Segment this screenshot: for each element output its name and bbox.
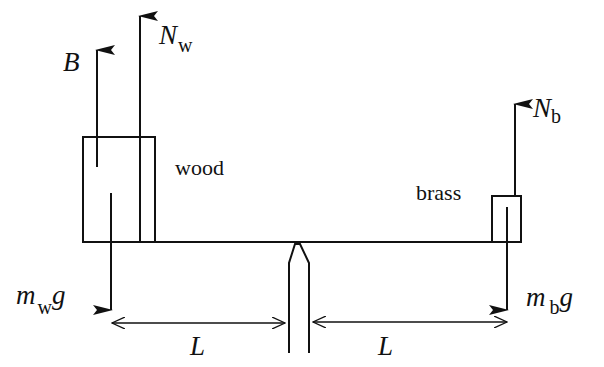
buoyancy-label: B bbox=[63, 49, 80, 76]
weight-wood-label: mwg bbox=[16, 282, 65, 309]
brass-label: brass bbox=[416, 182, 461, 204]
weight-brass-label: mbg bbox=[526, 284, 573, 311]
wood-label: wood bbox=[175, 157, 224, 179]
normal-force-wood-label: Nw bbox=[159, 22, 192, 49]
dimension-left-label: L bbox=[190, 333, 205, 360]
fulcrum bbox=[289, 244, 309, 353]
normal-force-brass-label: Nb bbox=[533, 95, 561, 122]
dimension-right-label: L bbox=[378, 333, 393, 360]
wood-block bbox=[83, 137, 155, 242]
lever-diagram bbox=[0, 0, 604, 367]
